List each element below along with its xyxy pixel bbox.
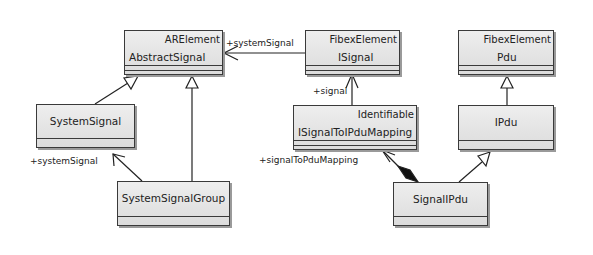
stereotype: FibexElement <box>484 34 551 45</box>
role-label-system-signal-group: +systemSignal <box>30 156 98 166</box>
stereotype: ARElement <box>165 34 220 45</box>
role-label-signal: +signal <box>313 86 347 96</box>
stereotype: FibexElement <box>330 34 397 45</box>
role-label-signal-to-pdu-mapping: +signalToPduMapping <box>259 155 358 165</box>
stereotype: Identifiable <box>358 109 414 120</box>
class-system-signal-group[interactable]: SystemSignalGroup <box>117 181 230 226</box>
class-isignal-to-ipdu-mapping[interactable]: Identifiable ISignalToIPduMapping <box>293 105 417 150</box>
class-name: ISignal <box>338 51 373 63</box>
class-name: AbstractSignal <box>129 51 205 63</box>
class-isignal[interactable]: FibexElement ISignal <box>305 30 400 75</box>
class-name: IPdu <box>459 116 553 128</box>
class-name: SignalIPdu <box>394 193 487 205</box>
class-name: ISignalToIPduMapping <box>298 126 412 138</box>
class-system-signal[interactable]: SystemSignal <box>36 104 135 148</box>
class-signal-ipdu[interactable]: SignalIPdu <box>393 182 488 226</box>
class-name: SystemSignal <box>37 115 134 127</box>
class-name: SystemSignalGroup <box>118 192 229 204</box>
class-name: Pdu <box>497 51 517 63</box>
class-ipdu[interactable]: IPdu <box>458 105 554 150</box>
class-pdu[interactable]: FibexElement Pdu <box>458 30 554 75</box>
class-abstract-signal[interactable]: ARElement AbstractSignal <box>124 30 223 75</box>
role-label-system-signal: +systemSignal <box>226 38 294 48</box>
